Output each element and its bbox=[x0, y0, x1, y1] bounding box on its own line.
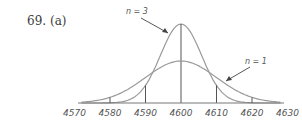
annotation-n1: n = 1 bbox=[245, 57, 267, 66]
annotation-n3: n = 3 bbox=[126, 7, 148, 16]
tick-label: 4620 bbox=[241, 108, 264, 118]
tick-label: 4580 bbox=[99, 108, 122, 118]
tick-label: 4600 bbox=[170, 108, 193, 118]
normal-curves-chart: 4570458045904600461046204630 n = 3n = 1 bbox=[0, 0, 302, 123]
tick-label: 4590 bbox=[134, 108, 157, 118]
tick-label: 4630 bbox=[276, 108, 299, 118]
tick-label: 4610 bbox=[205, 108, 228, 118]
tick-label: 4570 bbox=[63, 108, 86, 118]
